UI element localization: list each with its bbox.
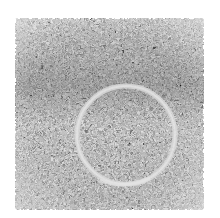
image-canvas: Noisy grayscale texture square containin… (0, 0, 220, 218)
noise-micrograph (0, 0, 220, 218)
